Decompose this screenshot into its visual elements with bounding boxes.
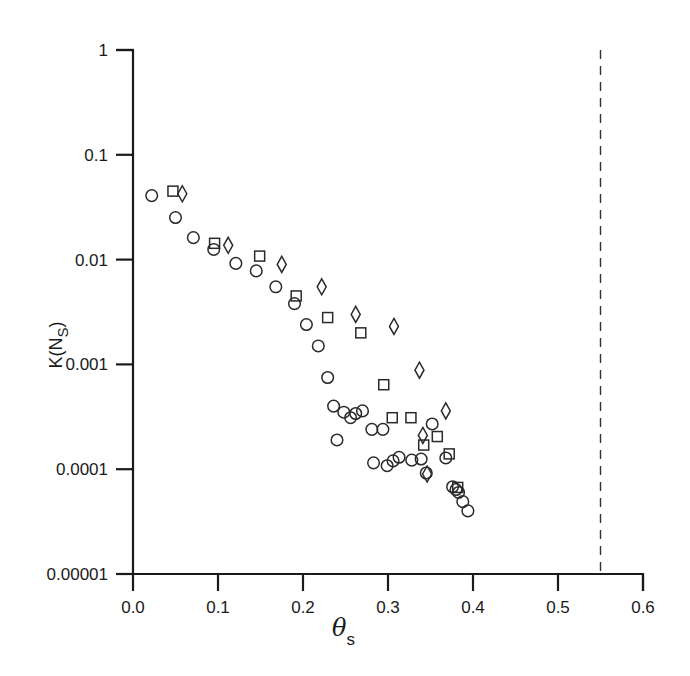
y-tick-label: 0.1 — [84, 146, 108, 165]
circle-marker — [462, 505, 474, 517]
y-tick-label: 0.0001 — [56, 460, 108, 479]
circle-marker — [331, 434, 343, 446]
x-tick-label: 0.6 — [631, 598, 655, 617]
x-axis-title-sub: s — [346, 630, 355, 649]
square-marker — [168, 186, 178, 196]
circle-marker — [440, 452, 452, 464]
x-tick-label: 0.1 — [206, 598, 230, 617]
x-axis-title: θs — [332, 614, 355, 649]
circle-marker — [270, 281, 282, 293]
y-axis-title-close: ) — [46, 321, 66, 327]
diamond-marker — [415, 362, 424, 378]
diamond-marker — [351, 306, 360, 322]
circle-marker — [188, 232, 200, 244]
square-marker — [291, 291, 301, 301]
series-circles — [146, 190, 474, 517]
scatter-chart: 10.10.010.0010.00010.00001 0.00.10.20.30… — [0, 0, 690, 676]
circle-marker — [322, 372, 334, 384]
x-tick-label: 0.3 — [376, 598, 400, 617]
diamond-marker — [224, 237, 233, 253]
y-tick-label: 0.001 — [65, 355, 108, 374]
square-marker — [356, 328, 366, 338]
circle-marker — [250, 265, 262, 277]
y-axis-title-main: K(N — [46, 338, 66, 369]
diamond-marker — [277, 256, 286, 272]
circle-marker — [289, 298, 301, 310]
circle-marker — [170, 212, 182, 224]
x-tick-label: 0.4 — [461, 598, 485, 617]
y-tick-label: 1 — [99, 41, 108, 60]
circle-marker — [301, 319, 313, 331]
x-tick-label: 0.5 — [546, 598, 570, 617]
circle-marker — [313, 340, 325, 352]
series-diamonds — [178, 186, 451, 482]
square-marker — [323, 313, 333, 323]
x-axis-ticks: 0.00.10.20.30.40.50.6 — [121, 574, 655, 617]
circle-marker — [357, 405, 369, 417]
series-squares — [168, 186, 463, 492]
circle-marker — [230, 258, 242, 270]
x-tick-label: 0.2 — [291, 598, 315, 617]
circle-marker — [366, 424, 378, 436]
y-axis-ticks: 10.10.010.0010.00010.00001 — [47, 41, 133, 584]
y-axis-title-sub: S — [54, 327, 71, 337]
y-tick-label: 0.00001 — [47, 565, 108, 584]
circle-marker — [426, 418, 438, 430]
y-tick-label: 0.01 — [75, 251, 108, 270]
square-marker — [406, 413, 416, 423]
circle-marker — [368, 457, 380, 469]
diamond-marker — [317, 279, 326, 295]
data-points — [146, 186, 474, 517]
square-marker — [432, 432, 442, 442]
circle-marker — [377, 424, 389, 436]
circle-marker — [146, 190, 158, 202]
circle-marker — [450, 484, 462, 496]
plot-frame — [116, 50, 643, 591]
diamond-marker — [389, 318, 398, 334]
square-marker — [255, 251, 265, 261]
square-marker — [379, 380, 389, 390]
x-axis-title-main: θ — [332, 614, 347, 642]
square-marker — [387, 413, 397, 423]
diamond-marker — [441, 403, 450, 419]
diamond-marker — [178, 186, 187, 202]
diamond-marker — [418, 427, 427, 443]
x-tick-label: 0.0 — [121, 598, 145, 617]
